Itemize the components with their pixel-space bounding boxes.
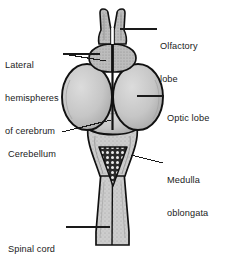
label-olfactory-lobe-line2: lobe bbox=[160, 74, 198, 85]
label-optic-lobe: Optic lobe bbox=[167, 91, 209, 146]
label-olfactory-lobe-line1: Olfactory bbox=[160, 41, 198, 52]
olfactory-lobe-right-structure bbox=[114, 9, 126, 44]
label-medulla-line1: Medulla bbox=[167, 175, 208, 186]
label-medulla-oblongata: Medulla oblongata bbox=[167, 153, 208, 241]
label-cerebrum-line1: Lateral bbox=[5, 60, 59, 71]
label-medulla-line2: oblongata bbox=[167, 208, 208, 219]
label-spinal-cord-line1: Spinal cord bbox=[8, 244, 55, 255]
optic-lobe-right-structure bbox=[113, 64, 163, 130]
label-optic-lobe-line1: Optic lobe bbox=[167, 113, 209, 124]
olfactory-lobe-left-structure bbox=[99, 9, 111, 44]
label-spinal-cord: Spinal cord bbox=[8, 222, 55, 258]
label-cerebellum: Cerebellum bbox=[8, 127, 56, 182]
label-cerebrum-line2: hemispheres bbox=[5, 93, 59, 104]
label-cerebellum-line1: Cerebellum bbox=[8, 149, 56, 160]
optic-lobe-left-structure bbox=[62, 64, 112, 130]
leader-medulla-oblongata bbox=[131, 155, 163, 163]
